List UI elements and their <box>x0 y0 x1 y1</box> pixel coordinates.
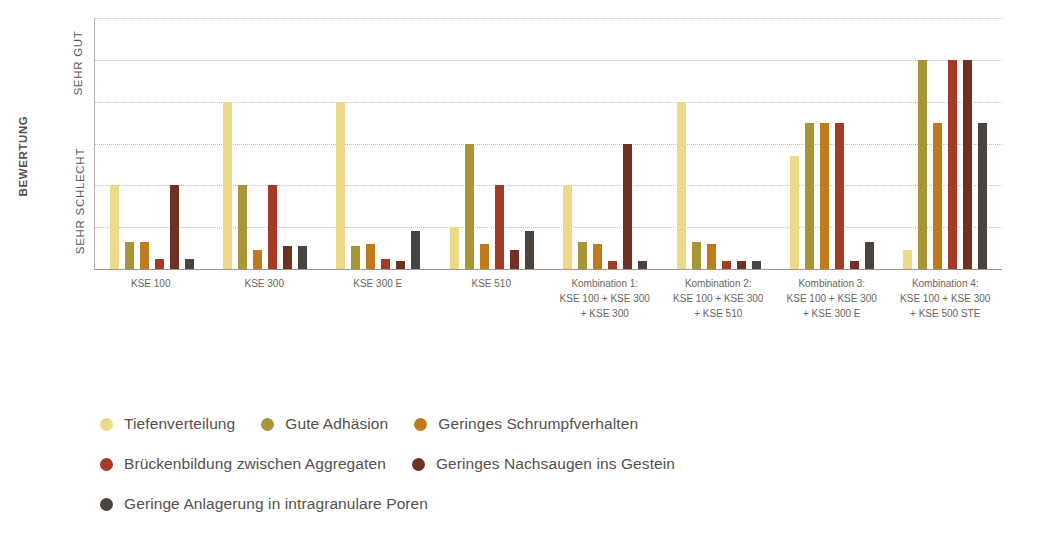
x-axis-tick-label-line: KSE 510 <box>437 276 547 291</box>
x-axis-tick-label-line: + KSE 510 <box>664 306 774 321</box>
bar <box>450 227 459 269</box>
bar <box>835 123 844 269</box>
bar <box>820 123 829 269</box>
bar <box>903 250 912 269</box>
bar-group <box>889 18 1002 269</box>
legend-item[interactable]: Geringes Schrumpfverhalten <box>414 415 638 433</box>
legend-color-swatch-icon <box>261 418 274 431</box>
legend-row: Geringe Anlagerung in intragranulare Por… <box>100 484 960 524</box>
bar <box>336 102 345 269</box>
x-axis-tick-label-line: KSE 300 <box>210 276 320 291</box>
legend-item[interactable]: Brückenbildung zwischen Aggregaten <box>100 455 386 473</box>
bar <box>918 60 927 269</box>
x-axis-tick-label-line: + KSE 300 E <box>777 306 887 321</box>
bar <box>563 185 572 269</box>
bar <box>805 123 814 269</box>
y-axis-label-sehr-schlecht: SEHR SCHLECHT <box>74 129 86 274</box>
legend-item[interactable]: Geringes Nachsaugen ins Gestein <box>412 455 675 473</box>
bar <box>155 259 164 269</box>
x-axis-tick-label: Kombination 3:KSE 100 + KSE 300+ KSE 300… <box>775 276 889 321</box>
x-axis-tick-label-line: + KSE 500 STE <box>891 306 1001 321</box>
bar <box>707 244 716 269</box>
bar <box>722 261 731 269</box>
bar <box>495 185 504 269</box>
legend-label: Tiefenverteilung <box>124 415 235 433</box>
x-axis-tick-label: Kombination 4:KSE 100 + KSE 300+ KSE 500… <box>889 276 1003 321</box>
legend-color-swatch-icon <box>100 458 113 471</box>
x-axis-tick-label: KSE 510 <box>435 276 549 321</box>
x-axis-tick-label-line: KSE 100 + KSE 300 <box>777 291 887 306</box>
bar-chart: BEWERTUNG SEHR GUT SEHR SCHLECHT KSE 100… <box>0 0 1048 345</box>
legend-item[interactable]: Tiefenverteilung <box>100 415 235 433</box>
legend-item[interactable]: Gute Adhäsion <box>261 415 388 433</box>
bar <box>692 242 701 269</box>
bar-groups <box>95 18 1002 269</box>
bar <box>752 261 761 269</box>
bar <box>865 242 874 269</box>
y-axis-title: BEWERTUNG <box>17 71 29 241</box>
x-axis-tick-label: KSE 100 <box>94 276 208 321</box>
legend-label: Geringes Schrumpfverhalten <box>438 415 638 433</box>
bar <box>140 242 149 269</box>
bar-group <box>208 18 321 269</box>
legend-color-swatch-icon <box>100 498 113 511</box>
y-axis-label-sehr-gut: SEHR GUT <box>72 13 84 113</box>
bar <box>677 102 686 269</box>
x-axis-tick-label-line: Kombination 4: <box>891 276 1001 291</box>
legend-color-swatch-icon <box>100 418 113 431</box>
bar <box>366 244 375 269</box>
x-axis-tick-label-line: KSE 100 <box>96 276 206 291</box>
bar-group <box>435 18 548 269</box>
bar <box>185 259 194 269</box>
bar-group <box>775 18 888 269</box>
x-axis-tick-label-line: Kombination 3: <box>777 276 887 291</box>
bar <box>411 231 420 269</box>
legend-label: Gute Adhäsion <box>285 415 388 433</box>
plot-area <box>94 18 1002 270</box>
bar <box>170 185 179 269</box>
legend-item[interactable]: Geringe Anlagerung in intragranulare Por… <box>100 495 428 513</box>
legend-row: TiefenverteilungGute AdhäsionGeringes Sc… <box>100 404 960 444</box>
x-axis-tick-label: KSE 300 E <box>321 276 435 321</box>
x-axis-tick-label: Kombination 2:KSE 100 + KSE 300+ KSE 510 <box>662 276 776 321</box>
bar <box>238 185 247 269</box>
legend-label: Brückenbildung zwischen Aggregaten <box>124 455 386 473</box>
legend-color-swatch-icon <box>414 418 427 431</box>
bar <box>623 144 632 270</box>
bar <box>850 261 859 269</box>
x-axis-tick-label: Kombination 1:KSE 100 + KSE 300+ KSE 300 <box>548 276 662 321</box>
legend-label: Geringes Nachsaugen ins Gestein <box>436 455 675 473</box>
bar-group <box>322 18 435 269</box>
bar <box>283 246 292 269</box>
x-axis-tick-label-line: KSE 100 + KSE 300 <box>891 291 1001 306</box>
bar <box>963 60 972 269</box>
bar <box>933 123 942 269</box>
bar-group <box>95 18 208 269</box>
bar <box>253 250 262 269</box>
x-axis-tick-label-line: KSE 100 + KSE 300 <box>664 291 774 306</box>
bar <box>125 242 134 269</box>
bar <box>525 231 534 269</box>
bar <box>638 261 647 269</box>
x-axis-labels: KSE 100KSE 300KSE 300 EKSE 510Kombinatio… <box>94 276 1002 321</box>
x-axis-tick-label-line: Kombination 2: <box>664 276 774 291</box>
bar <box>608 261 617 269</box>
bar <box>396 261 405 269</box>
bar-group <box>662 18 775 269</box>
x-axis-tick-label-line: KSE 100 + KSE 300 <box>550 291 660 306</box>
bar <box>351 246 360 269</box>
bar-group <box>549 18 662 269</box>
bar <box>110 185 119 269</box>
bar <box>948 60 957 269</box>
legend-row: Brückenbildung zwischen AggregatenGering… <box>100 444 960 484</box>
x-axis-tick-label-line: Kombination 1: <box>550 276 660 291</box>
bar <box>465 144 474 270</box>
bar <box>298 246 307 269</box>
legend-color-swatch-icon <box>412 458 425 471</box>
bar <box>268 185 277 269</box>
bar <box>223 102 232 269</box>
bar <box>480 244 489 269</box>
bar <box>578 242 587 269</box>
bar <box>510 250 519 269</box>
legend-label: Geringe Anlagerung in intragranulare Por… <box>124 495 428 513</box>
